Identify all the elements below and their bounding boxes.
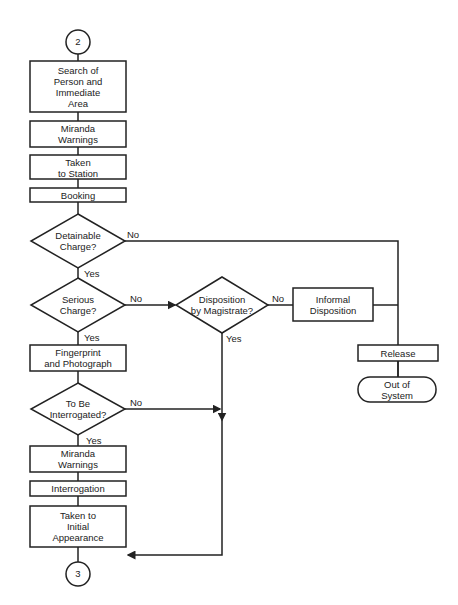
- node-release[interactable]: Release: [358, 348, 438, 359]
- decision-detainable-charge[interactable]: DetainableCharge?: [30, 230, 126, 252]
- decision-to-be-interrogated[interactable]: To BeInterrogated?: [30, 398, 126, 420]
- edge-label-interrogated-yes: Yes: [86, 435, 102, 446]
- node-interrogation[interactable]: Interrogation: [30, 483, 126, 494]
- edge-label-magistrate-no: No: [272, 293, 284, 304]
- node-miranda-warnings-2[interactable]: MirandaWarnings: [30, 448, 126, 470]
- edge-label-serious-yes: Yes: [84, 332, 100, 343]
- edge-label-detainable-no: No: [127, 229, 139, 240]
- node-taken-to-station[interactable]: Takento Station: [30, 157, 126, 179]
- decision-serious-charge[interactable]: SeriousCharge?: [30, 294, 126, 316]
- connector-2-label: 2: [66, 36, 90, 47]
- node-search[interactable]: Search ofPerson andImmediateArea: [30, 65, 126, 109]
- node-booking[interactable]: Booking: [30, 190, 126, 201]
- decision-disposition-by-magistrate[interactable]: Dispositionby Magistrate?: [174, 294, 270, 316]
- connector-3-label: 3: [66, 568, 90, 579]
- node-fingerprint-and-photograph[interactable]: Fingerprintand Photograph: [30, 347, 126, 369]
- edge-label-detainable-yes: Yes: [84, 268, 100, 279]
- edge-label-serious-no: No: [130, 293, 142, 304]
- node-taken-to-initial-appearance[interactable]: Taken toInitialAppearance: [30, 510, 126, 543]
- node-informal-disposition[interactable]: InformalDisposition: [293, 294, 373, 316]
- node-miranda-warnings-1[interactable]: MirandaWarnings: [30, 123, 126, 145]
- edge-label-magistrate-yes: Yes: [226, 333, 242, 344]
- edge-label-interrogated-no: No: [130, 397, 142, 408]
- terminal-out-of-system[interactable]: Out ofSystem: [358, 379, 436, 401]
